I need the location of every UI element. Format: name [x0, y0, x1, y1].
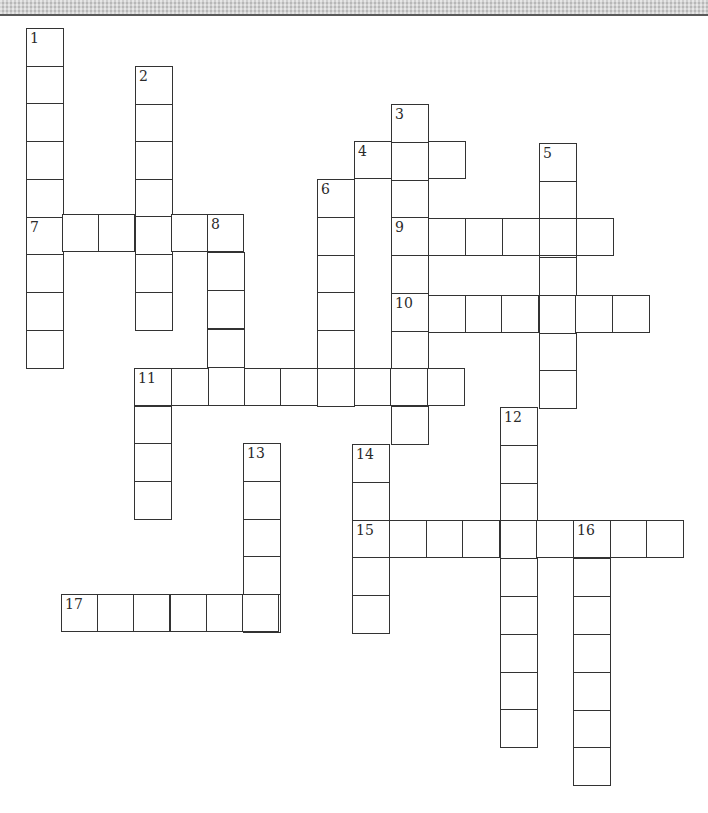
crossword-cell[interactable]: 15 [352, 520, 390, 559]
crossword-cell[interactable] [428, 141, 466, 179]
crossword-cell[interactable]: 2 [135, 66, 173, 105]
crossword-cell[interactable] [352, 557, 390, 596]
crossword-cell[interactable]: 6 [317, 179, 355, 218]
crossword-cell[interactable]: 14 [352, 444, 390, 483]
crossword-cell[interactable] [26, 179, 64, 218]
crossword-cell[interactable]: 16 [573, 520, 611, 558]
crossword-cell[interactable] [465, 295, 503, 333]
crossword-cell[interactable] [465, 218, 503, 256]
crossword-cell[interactable]: 10 [391, 293, 429, 332]
crossword-cell[interactable] [352, 595, 390, 634]
crossword-cell[interactable] [539, 257, 577, 296]
crossword-cell[interactable] [317, 292, 355, 331]
crossword-cell[interactable] [242, 594, 279, 632]
crossword-cell[interactable]: 13 [243, 443, 281, 482]
crossword-cell[interactable] [500, 558, 538, 597]
crossword-cell[interactable] [500, 445, 538, 484]
crossword-cell[interactable]: 11 [134, 368, 172, 406]
crossword-cell[interactable] [134, 406, 172, 445]
crossword-cell[interactable] [536, 520, 574, 558]
crossword-cell[interactable] [62, 214, 99, 252]
crossword-cell[interactable] [135, 104, 173, 143]
crossword-cell[interactable] [134, 481, 172, 520]
crossword-cell[interactable] [244, 368, 282, 406]
crossword-cell[interactable] [575, 295, 613, 333]
crossword-cell[interactable] [207, 367, 245, 406]
crossword-cell[interactable] [428, 295, 466, 333]
crossword-cell[interactable] [426, 520, 464, 558]
crossword-cell[interactable] [135, 254, 173, 293]
crossword-cell[interactable] [26, 330, 64, 369]
crossword-cell[interactable] [354, 368, 392, 406]
crossword-cell[interactable] [280, 368, 318, 406]
crossword-cell[interactable]: 1 [26, 28, 64, 67]
crossword-cell[interactable] [207, 290, 245, 329]
crossword-cell[interactable] [391, 142, 429, 181]
crossword-cell[interactable] [135, 216, 173, 255]
crossword-cell[interactable] [390, 368, 428, 406]
crossword-cell[interactable] [573, 672, 611, 711]
crossword-cell[interactable] [500, 520, 538, 559]
crossword-cell[interactable] [26, 292, 64, 331]
crossword-cell[interactable] [646, 520, 684, 558]
crossword-cell[interactable] [391, 180, 429, 219]
crossword-cell[interactable] [133, 594, 170, 632]
crossword-cell[interactable] [317, 330, 355, 369]
crossword-cell[interactable]: 12 [500, 407, 538, 446]
crossword-cell[interactable]: 9 [391, 217, 429, 256]
crossword-cell[interactable] [243, 556, 281, 595]
crossword-cell[interactable] [428, 218, 466, 256]
crossword-cell[interactable] [135, 141, 173, 180]
crossword-cell[interactable] [206, 594, 243, 632]
crossword-cell[interactable] [317, 255, 355, 294]
crossword-cell[interactable] [391, 406, 429, 445]
crossword-cell[interactable] [462, 520, 500, 558]
crossword-cell[interactable] [97, 594, 134, 632]
crossword-cell[interactable] [135, 292, 173, 331]
crossword-cell[interactable] [573, 596, 611, 635]
crossword-cell[interactable] [207, 252, 245, 291]
crossword-cell[interactable] [539, 370, 577, 409]
crossword-cell[interactable] [389, 520, 427, 558]
crossword-cell[interactable] [391, 255, 429, 294]
crossword-cell[interactable]: 7 [26, 217, 64, 256]
crossword-cell[interactable] [500, 596, 538, 635]
crossword-cell[interactable] [573, 747, 611, 786]
crossword-cell[interactable] [576, 218, 614, 256]
crossword-cell[interactable] [573, 558, 611, 597]
crossword-cell[interactable]: 8 [207, 214, 244, 252]
crossword-cell[interactable] [352, 482, 390, 521]
crossword-cell[interactable]: 3 [391, 104, 429, 143]
crossword-cell[interactable] [539, 181, 577, 220]
crossword-cell[interactable] [500, 483, 538, 522]
crossword-cell[interactable] [612, 295, 650, 333]
crossword-cell[interactable] [134, 443, 172, 482]
crossword-cell[interactable] [171, 214, 208, 252]
crossword-cell[interactable] [502, 218, 540, 256]
crossword-cell[interactable] [391, 331, 429, 370]
crossword-cell[interactable]: 17 [61, 594, 98, 632]
crossword-cell[interactable] [170, 594, 207, 632]
crossword-cell[interactable] [26, 103, 64, 142]
crossword-cell[interactable] [500, 672, 538, 711]
crossword-cell[interactable] [573, 634, 611, 673]
crossword-cell[interactable] [243, 519, 281, 558]
crossword-cell[interactable] [539, 218, 577, 256]
crossword-cell[interactable] [317, 217, 355, 256]
crossword-cell[interactable] [539, 295, 577, 334]
crossword-cell[interactable] [501, 295, 539, 333]
crossword-cell[interactable] [500, 709, 538, 748]
crossword-cell[interactable] [427, 368, 465, 406]
crossword-cell[interactable] [500, 634, 538, 673]
crossword-cell[interactable]: 4 [354, 141, 392, 179]
crossword-cell[interactable]: 5 [539, 143, 577, 182]
crossword-cell[interactable] [539, 333, 577, 372]
crossword-cell[interactable] [317, 368, 355, 407]
crossword-cell[interactable] [610, 520, 648, 558]
crossword-cell[interactable] [573, 710, 611, 749]
crossword-cell[interactable] [135, 179, 173, 218]
crossword-cell[interactable] [207, 329, 245, 368]
crossword-cell[interactable] [98, 214, 135, 252]
crossword-cell[interactable] [26, 66, 64, 105]
crossword-cell[interactable] [26, 141, 64, 180]
